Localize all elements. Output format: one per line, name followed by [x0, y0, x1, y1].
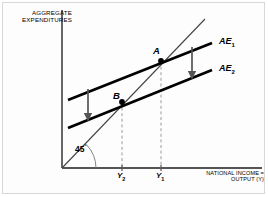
x-tick-label-y1: Y1 — [156, 171, 164, 182]
ae1-label-subscript: 1 — [232, 42, 235, 48]
y-axis-title-line1: AGGREGATE — [32, 9, 72, 16]
y-axis-title-line2: EXPENDITURES — [22, 16, 72, 23]
ae1-label-text: AE — [219, 36, 232, 46]
ae1-label: AE1 — [219, 36, 235, 49]
angle-arc — [87, 145, 96, 168]
ae1-line — [68, 43, 212, 100]
y-axis-title: AGGREGATEEXPENDITURES — [4, 9, 72, 23]
x-axis-title-line2: OUTPUT (Y) — [231, 176, 264, 182]
point-a-label: A — [153, 46, 160, 57]
ae2-label-subscript: 2 — [232, 69, 235, 75]
ae2-label: AE2 — [219, 63, 235, 76]
x-tick-label-y2: Y2 — [117, 171, 125, 182]
chart-canvas: AGGREGATEEXPENDITURES NATIONAL INCOME =O… — [0, 0, 268, 197]
ae2-line — [68, 70, 212, 128]
chart-svg — [0, 0, 268, 197]
point-b-label: B — [113, 91, 120, 102]
ae2-label-text: AE — [219, 63, 232, 73]
x-axis-title-line1: NATIONAL INCOME = — [206, 170, 264, 176]
angle-label: 45° — [75, 143, 87, 155]
degree-symbol-icon: ° — [84, 143, 86, 149]
point-a-marker — [158, 58, 164, 64]
x-tick-label-y2-subscript: 2 — [122, 176, 125, 182]
x-axis-title: NATIONAL INCOME =OUTPUT (Y) — [186, 170, 264, 183]
x-tick-label-y1-subscript: 1 — [161, 176, 164, 182]
